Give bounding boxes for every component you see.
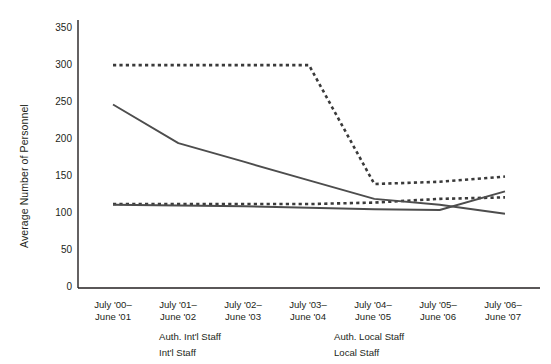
- x-tick-1: July '01– June '02: [143, 299, 213, 322]
- x-tick-2-line1: July '02–: [208, 299, 278, 311]
- x-tick-6: July '06– June '07: [468, 299, 538, 322]
- x-tick-0-line1: July '00–: [78, 299, 148, 311]
- legend-label-intl-staff: Int'l Staff: [159, 347, 196, 358]
- series-line-auth-int-l-staff: [113, 65, 505, 184]
- x-tick-1-line2: June '02: [143, 311, 213, 323]
- series-line-auth-local-staff: [113, 197, 505, 204]
- x-tick-3-line1: July '03–: [273, 299, 343, 311]
- x-tick-1-line1: July '01–: [143, 299, 213, 311]
- legend-item-auth-intl-staff[interactable]: Auth. Int'l Staff: [118, 331, 221, 342]
- series-layer: [113, 65, 505, 214]
- x-tick-6-line1: July '06–: [468, 299, 538, 311]
- x-tick-3-line2: June '04: [273, 311, 343, 323]
- series-line-int-l-staff: [113, 105, 505, 214]
- x-tick-5: July '05– June '06: [403, 299, 473, 322]
- legend-item-local-staff[interactable]: Local Staff: [293, 347, 379, 358]
- x-tick-0-line2: June '01: [78, 311, 148, 323]
- x-tick-2-line2: June '03: [208, 311, 278, 323]
- x-tick-4-line1: July '04–: [338, 299, 408, 311]
- line-chart: Average Number of Personnel 350 300 250 …: [0, 0, 551, 364]
- legend-label-local-staff: Local Staff: [334, 347, 379, 358]
- legend-item-auth-local-staff[interactable]: Auth. Local Staff: [293, 331, 404, 342]
- series-line-local-staff: [113, 191, 505, 210]
- x-tick-4-line2: June '05: [338, 311, 408, 323]
- legend-item-intl-staff[interactable]: Int'l Staff: [118, 347, 196, 358]
- legend-label-auth-local-staff: Auth. Local Staff: [334, 331, 404, 342]
- x-tick-4: July '04– June '05: [338, 299, 408, 322]
- x-tick-0: July '00– June '01: [78, 299, 148, 322]
- legend-label-auth-intl-staff: Auth. Int'l Staff: [159, 331, 221, 342]
- x-tick-5-line1: July '05–: [403, 299, 473, 311]
- axis-lines: [78, 20, 540, 288]
- x-tick-6-line2: June '07: [468, 311, 538, 323]
- x-tick-5-line2: June '06: [403, 311, 473, 323]
- x-tick-2: July '02– June '03: [208, 299, 278, 322]
- x-tick-3: July '03– June '04: [273, 299, 343, 322]
